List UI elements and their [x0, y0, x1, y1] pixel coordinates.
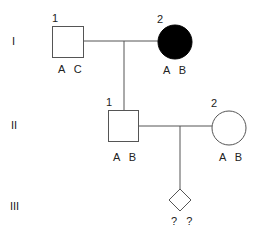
generation-label-III: III — [10, 201, 19, 212]
individual-I-1-male-square — [53, 27, 84, 58]
individual-number-I-2: 2 — [157, 14, 163, 25]
individual-number-II-2: 2 — [211, 98, 217, 109]
individual-II-2-female-circle — [212, 111, 246, 145]
individual-I-2-affected-female-circle — [158, 25, 192, 59]
generation-label-II: II — [11, 120, 17, 131]
genotype-II-1: A B — [113, 152, 139, 163]
genotype-I-2: A B — [163, 65, 189, 76]
individual-II-1-male-square — [109, 111, 139, 142]
generation-label-I: I — [12, 36, 15, 47]
genotype-II-2: A B — [219, 152, 245, 163]
pedigree-chart — [0, 0, 258, 239]
individual-III-1-unknown-diamond — [169, 189, 191, 211]
genotype-III-1: ? ? — [171, 216, 195, 227]
genotype-I-1: A C — [58, 64, 85, 75]
individual-number-I-1: 1 — [52, 13, 58, 24]
individual-number-II-1: 1 — [106, 97, 112, 108]
